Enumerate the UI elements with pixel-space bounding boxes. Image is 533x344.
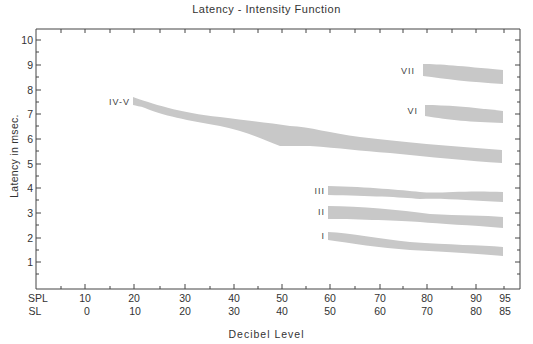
sl-tick-labels: SL 0 10 20 30 40 50 60 70 80 85 — [29, 305, 511, 317]
y-tick-labels: 10 9 8 7 6 5 4 3 2 1 — [21, 34, 33, 268]
band-ii — [328, 206, 503, 228]
band-iii — [328, 186, 503, 202]
y-tick-1: 1 — [27, 256, 33, 268]
spl-tick: 50 — [276, 292, 288, 304]
sl-tick: 80 — [470, 305, 482, 317]
y-tick-9: 9 — [27, 59, 33, 71]
spl-tick: 30 — [179, 292, 191, 304]
sl-tick: 40 — [276, 305, 288, 317]
band-i — [328, 232, 503, 256]
spl-tick: 60 — [324, 292, 336, 304]
y-axis-label: Latency in msec. — [8, 106, 20, 206]
spl-tick: 90 — [470, 292, 482, 304]
y-tick-8: 8 — [27, 84, 33, 96]
spl-tick: 70 — [374, 292, 386, 304]
spl-row-label: SPL — [28, 292, 48, 304]
label-vi: VI — [407, 106, 418, 116]
sl-row-label: SL — [29, 305, 42, 317]
label-vii: VII — [401, 66, 415, 76]
label-i: I — [321, 231, 325, 241]
band-vii — [423, 64, 503, 84]
spl-tick: 20 — [128, 292, 140, 304]
spl-tick: 40 — [228, 292, 240, 304]
spl-tick-labels: SPL 10 20 30 40 50 60 70 80 90 95 — [28, 292, 511, 304]
spl-tick: 95 — [499, 292, 511, 304]
chart-plot: 10 9 8 7 6 5 4 3 2 1 SPL 10 20 30 40 50 … — [0, 0, 533, 344]
x-axis-label: Decibel Level — [0, 328, 533, 340]
band-vi — [425, 105, 503, 123]
spl-tick: 10 — [79, 292, 91, 304]
sl-tick: 20 — [179, 305, 191, 317]
label-iii: III — [314, 186, 325, 196]
sl-tick: 85 — [499, 305, 511, 317]
spl-tick: 80 — [421, 292, 433, 304]
sl-tick: 70 — [421, 305, 433, 317]
sl-tick: 60 — [374, 305, 386, 317]
y-tick-6: 6 — [27, 133, 33, 145]
sl-tick: 50 — [324, 305, 336, 317]
sl-tick: 0 — [84, 305, 90, 317]
y-tick-2: 2 — [27, 232, 33, 244]
latency-bands — [133, 64, 503, 256]
label-ii: II — [318, 207, 325, 217]
label-iv-v: IV-V — [109, 97, 130, 107]
y-tick-3: 3 — [27, 207, 33, 219]
y-tick-7: 7 — [27, 108, 33, 120]
y-tick-4: 4 — [27, 182, 33, 194]
y-tick-10: 10 — [21, 34, 33, 46]
sl-tick: 30 — [228, 305, 240, 317]
y-tick-5: 5 — [27, 158, 33, 170]
sl-tick: 10 — [129, 305, 141, 317]
